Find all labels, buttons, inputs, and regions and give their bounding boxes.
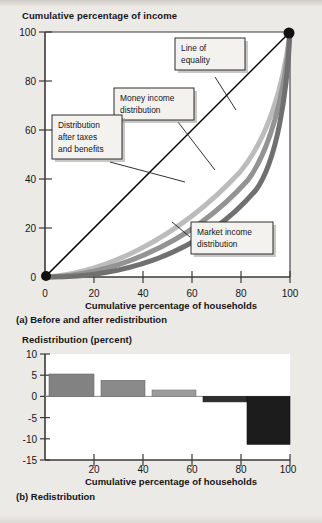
y-tick-40: 40 bbox=[25, 174, 37, 185]
x-tick-100: 100 bbox=[282, 288, 299, 299]
x-tick-80: 80 bbox=[235, 288, 247, 299]
callout-money-income-line2: distribution bbox=[120, 105, 161, 115]
yb-tick-neg15: -15 bbox=[23, 455, 38, 466]
y-tick-60: 60 bbox=[25, 125, 37, 136]
yb-tick-neg10: -10 bbox=[23, 434, 38, 445]
panel-b-x-tick-labels: 20 40 60 80 100 bbox=[88, 464, 296, 473]
panel-b-x-axis-title: Cumulative percentage of households bbox=[85, 476, 257, 487]
y-tick-80: 80 bbox=[25, 76, 37, 87]
panel-b-plot: 10 5 0 -5 -10 -15 bbox=[0, 348, 322, 473]
callout-line-of-equality: Line of equality bbox=[175, 38, 248, 73]
y-tick-20: 20 bbox=[25, 223, 37, 234]
xb-tick-60: 60 bbox=[186, 464, 198, 473]
panel-a-x-tick-labels: 0 20 40 60 80 100 bbox=[42, 288, 299, 299]
panel-a-y-tick-labels: 100 80 60 40 20 0 bbox=[19, 27, 36, 283]
panel-b-y-tick-labels: 10 5 0 -5 -10 -15 bbox=[23, 349, 38, 466]
panel-b-caption: (b) Redistribution bbox=[16, 491, 95, 502]
callout-money-income-line1: Money income bbox=[120, 93, 175, 103]
yb-tick-0: 0 bbox=[31, 391, 37, 402]
bar-80-100 bbox=[247, 396, 290, 444]
callout-market-income-distribution: Market income distribution bbox=[191, 222, 276, 257]
x-tick-40: 40 bbox=[137, 288, 149, 299]
x-tick-0: 0 bbox=[42, 288, 48, 299]
callout-distribution-after-taxes: Distribution after taxes and benefits bbox=[52, 115, 125, 162]
callout-after-taxes-line3: and benefits bbox=[58, 144, 104, 154]
bar-20-40 bbox=[101, 380, 145, 396]
yb-tick-neg5: -5 bbox=[28, 413, 37, 424]
callout-line-of-equality-line2: equality bbox=[181, 55, 211, 65]
callout-market-income-line2: distribution bbox=[197, 239, 238, 249]
callout-money-income-distribution: Money income distribution bbox=[114, 88, 197, 123]
callout-after-taxes-line1: Distribution bbox=[58, 120, 100, 130]
endpoint-dot-top-right bbox=[284, 28, 295, 39]
panel-a-plot: 100 80 60 40 20 0 0 20 40 60 80 bbox=[0, 22, 322, 312]
y-tick-0: 0 bbox=[30, 272, 36, 283]
bar-40-60 bbox=[152, 390, 196, 396]
endpoint-dot-origin bbox=[41, 271, 51, 281]
bar-0-20 bbox=[49, 374, 94, 396]
callout-market-income-line1: Market income bbox=[197, 227, 252, 237]
y-tick-100: 100 bbox=[19, 27, 36, 38]
panel-b-redistribution-bars: Redistribution (percent) 10 5 0 -5 bbox=[0, 330, 322, 523]
panel-a-caption: (a) Before and after redistribution bbox=[16, 314, 167, 325]
panel-a-x-axis-title: Cumulative percentage of households bbox=[85, 300, 257, 311]
panel-b-y-axis-title: Redistribution (percent) bbox=[22, 334, 132, 345]
xb-tick-80: 80 bbox=[235, 464, 247, 473]
callout-after-taxes-line2: after taxes bbox=[58, 132, 97, 142]
panel-a-lorenz-curves: Cumulative percentage of income 100 80 6… bbox=[0, 0, 322, 330]
panel-a-y-axis-title: Cumulative percentage of income bbox=[22, 10, 177, 21]
x-tick-60: 60 bbox=[186, 288, 198, 299]
x-tick-20: 20 bbox=[88, 288, 100, 299]
xb-tick-20: 20 bbox=[88, 464, 100, 473]
bar-60-80 bbox=[203, 396, 247, 402]
yb-tick-5: 5 bbox=[31, 370, 37, 381]
yb-tick-10: 10 bbox=[26, 349, 38, 360]
xb-tick-100: 100 bbox=[280, 464, 297, 473]
callout-line-of-equality-line1: Line of bbox=[181, 43, 207, 53]
xb-tick-40: 40 bbox=[137, 464, 149, 473]
figure-container: Cumulative percentage of income 100 80 6… bbox=[0, 0, 322, 523]
